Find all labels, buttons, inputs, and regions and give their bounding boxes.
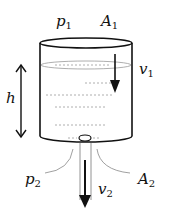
h-arrow-icon [16, 65, 26, 137]
water-surface [41, 61, 131, 69]
label-v2: v2 [98, 182, 113, 199]
p2-leader [45, 149, 73, 173]
label-p2: p2 [25, 172, 41, 189]
tank-cylinder [40, 38, 132, 142]
orifice [79, 135, 91, 141]
A2-leader [97, 149, 130, 173]
water-dash-lines [46, 65, 112, 125]
tank-diagram: p1 A1 v1 h p2 A2 v2 [0, 0, 170, 217]
label-p1: p1 [56, 14, 72, 31]
label-A1: A1 [101, 14, 118, 31]
v2-arrow-icon [79, 160, 91, 208]
label-A2: A2 [138, 172, 155, 189]
v1-arrow-icon [110, 54, 120, 93]
label-h: h [6, 91, 16, 106]
label-v1: v1 [139, 62, 154, 79]
